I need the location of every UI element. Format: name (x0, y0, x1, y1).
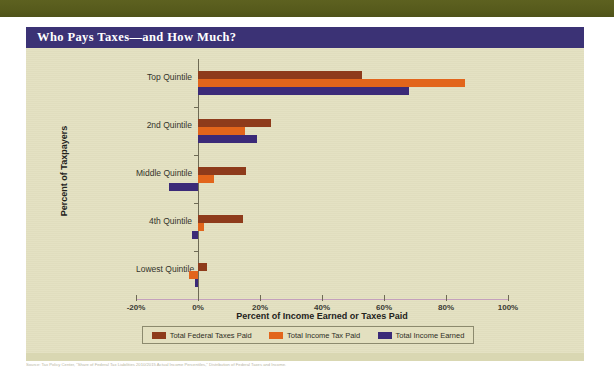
x-axis-title: Percent of Income Earned or Taxes Paid (136, 311, 508, 321)
y-axis-title: Percent of Taxpayers (59, 101, 69, 241)
bar-1-0 (198, 119, 271, 127)
legend-swatch-icon-2 (378, 332, 392, 339)
x-tick-2 (260, 295, 261, 301)
bar-0-0 (198, 71, 362, 79)
y-axis-label-3: 4th Quintile (136, 216, 192, 226)
footer-strip (26, 353, 584, 361)
bar-2-1 (198, 175, 214, 183)
bar-3-1 (198, 223, 204, 231)
legend-label-0: Total Federal Taxes Paid (170, 331, 252, 340)
legend-item-2[interactable]: Total Income Earned (378, 331, 465, 340)
bar-0-2 (198, 87, 409, 95)
y-tick-1 (194, 107, 199, 108)
x-tick-5 (446, 295, 447, 301)
bar-2-2 (169, 183, 198, 191)
bar-0-1 (198, 79, 465, 87)
bar-1-1 (198, 127, 245, 135)
y-tick-3 (194, 203, 199, 204)
white-gutter (0, 17, 614, 27)
legend-item-1[interactable]: Total Income Tax Paid (269, 331, 360, 340)
chart-title-bar: Who Pays Taxes—and How Much? (26, 27, 584, 48)
bar-4-0 (198, 263, 207, 271)
legend-label-1: Total Income Tax Paid (287, 331, 360, 340)
y-tick-4 (194, 251, 199, 252)
y-axis-label-1: 2nd Quintile (136, 120, 192, 130)
chart-legend: Total Federal Taxes PaidTotal Income Tax… (142, 326, 474, 344)
bar-3-2 (192, 231, 198, 239)
bar-1-2 (198, 135, 257, 143)
plot-area: -20%0%20%40%60%80%100% Top Quintile2nd Q… (136, 59, 508, 299)
page-title: Who Pays Taxes—and How Much? (26, 30, 236, 45)
x-tick-0 (136, 295, 137, 301)
y-axis-label-4: Lowest Quintile (136, 264, 192, 274)
y-axis-label-0: Top Quintile (136, 72, 192, 82)
x-tick-3 (322, 295, 323, 301)
x-tick-6 (508, 295, 509, 301)
top-band-gradient (0, 0, 614, 17)
chart-panel: -20%0%20%40%60%80%100% Top Quintile2nd Q… (26, 48, 584, 353)
bar-4-2 (195, 279, 198, 287)
y-tick-2 (194, 155, 199, 156)
legend-label-2: Total Income Earned (396, 331, 465, 340)
source-note: Source: Tax Policy Center, "Share of Fed… (26, 362, 596, 374)
top-decorative-band (0, 0, 614, 17)
bar-4-1 (189, 271, 198, 279)
legend-swatch-icon-0 (152, 332, 166, 339)
legend-swatch-icon-1 (269, 332, 283, 339)
x-tick-1 (198, 295, 199, 301)
x-tick-4 (384, 295, 385, 301)
bar-3-0 (198, 215, 243, 223)
legend-item-0[interactable]: Total Federal Taxes Paid (152, 331, 252, 340)
y-axis-label-2: Middle Quintile (136, 168, 192, 178)
bar-2-0 (198, 167, 246, 175)
